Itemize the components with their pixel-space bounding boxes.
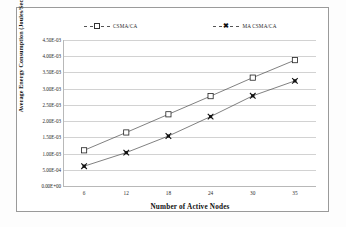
data-point-marker <box>250 75 255 80</box>
open-square-marker-icon <box>94 23 100 29</box>
series-line-0 <box>84 60 295 150</box>
data-point-marker <box>124 130 129 135</box>
series-layer <box>63 40 316 186</box>
filled-x-marker-icon: ✖ <box>223 23 229 29</box>
legend-line-icon <box>230 26 239 27</box>
data-point-marker <box>81 163 87 169</box>
legend-line-icon <box>84 26 93 27</box>
x-axis-tick-label: 35 <box>285 190 305 196</box>
y-axis-tick-label: 1.50E-03 <box>21 134 61 140</box>
series-line-1 <box>84 81 295 166</box>
y-axis-tick-labels: 4.50E-034.00E-033.50E-033.00E-032.50E-03… <box>19 40 61 186</box>
y-axis-tick-label: 0.00E+00 <box>21 183 61 189</box>
legend-label: MA CSMA/CA <box>242 23 276 29</box>
data-point-marker <box>123 150 129 156</box>
y-axis-tick-label: 3.50E-03 <box>21 69 61 75</box>
y-axis-tick-label: 3.00E-03 <box>21 86 61 92</box>
data-point-marker <box>81 148 86 153</box>
legend-line-icon <box>213 26 222 27</box>
y-axis-tick-label: 2.00E-03 <box>21 118 61 124</box>
legend-item-csma-ca: CSMA/CA <box>84 20 137 32</box>
data-point-marker <box>292 58 297 63</box>
chart-legend: CSMA/CA ✖ MA CSMA/CA <box>60 20 290 32</box>
x-axis-tick-label: 24 <box>201 190 221 196</box>
legend-label: CSMA/CA <box>113 23 137 29</box>
x-axis-tick-label: 12 <box>116 190 136 196</box>
y-axis-tick-label: 2.50E-03 <box>21 102 61 108</box>
y-axis-tick-label: 4.50E-03 <box>21 37 61 43</box>
plot-area <box>63 40 316 186</box>
data-point-marker <box>166 112 171 117</box>
legend-item-ma-csma-ca: ✖ MA CSMA/CA <box>213 20 276 32</box>
x-axis-title: Number of Active Nodes <box>60 203 320 211</box>
data-point-marker <box>250 93 256 99</box>
data-point-marker <box>292 78 298 84</box>
y-axis-tick-label: 5.00E-04 <box>21 167 61 173</box>
data-point-marker <box>208 114 214 120</box>
x-axis-tick-label: 30 <box>243 190 263 196</box>
x-axis-tick-label: 6 <box>74 190 94 196</box>
x-axis-line <box>63 186 316 187</box>
y-axis-tick-label: 1.00E-03 <box>21 151 61 157</box>
data-point-marker <box>166 133 172 139</box>
y-axis-tick-label: 4.00E-03 <box>21 53 61 59</box>
x-axis-tick-labels: 61218243035 <box>63 190 316 200</box>
data-point-marker <box>208 94 213 99</box>
chart-figure: CSMA/CA ✖ MA CSMA/CA Average Energy Cons… <box>0 0 346 227</box>
legend-line-icon <box>101 26 110 27</box>
x-axis-tick-label: 18 <box>158 190 178 196</box>
